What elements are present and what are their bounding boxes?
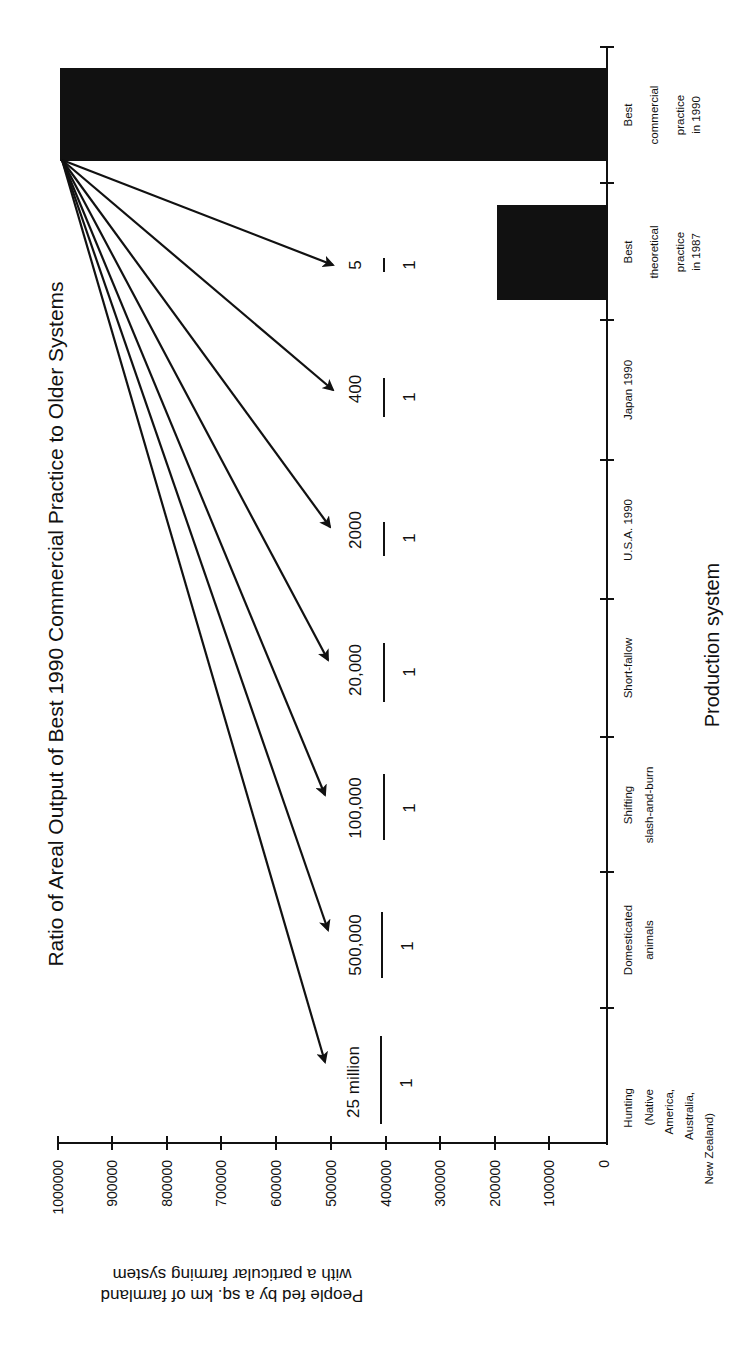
svg-text:in 1990: in 1990 xyxy=(690,96,702,134)
ytick-900000: 900000 xyxy=(104,1160,120,1207)
svg-text:100,000: 100,000 xyxy=(346,777,365,838)
category-label-best-theoretical: Best theoretical practice in 1987 xyxy=(622,225,702,278)
ytick-700000: 700000 xyxy=(213,1160,229,1207)
svg-text:1: 1 xyxy=(397,1078,416,1087)
arrow-to-usa xyxy=(62,160,330,527)
svg-text:1: 1 xyxy=(400,260,419,269)
category-label-japan-1990: Japan 1990 xyxy=(622,360,634,420)
ytick-300000: 300000 xyxy=(432,1160,448,1207)
svg-text:2000: 2000 xyxy=(346,511,365,549)
bar-best-commercial-1990 xyxy=(60,68,607,161)
category-label-shifting: Shifting slash-and-burn xyxy=(622,767,655,844)
svg-text:1: 1 xyxy=(400,667,419,676)
svg-text:Australia,: Australia, xyxy=(683,1092,695,1140)
category-axis-title: Production system xyxy=(701,563,723,728)
svg-text:Domesticated: Domesticated xyxy=(622,905,634,975)
svg-text:400: 400 xyxy=(346,375,365,403)
svg-text:1: 1 xyxy=(400,803,419,812)
svg-text:Hunting: Hunting xyxy=(622,1088,634,1128)
ytick-1000000: 1000000 xyxy=(50,1160,66,1215)
value-axis-title-line2: with a particular farming system xyxy=(112,1265,352,1284)
ytick-500000: 500000 xyxy=(323,1160,339,1207)
value-axis-title-line1: People fed by a sq. km of farmland xyxy=(101,1286,364,1305)
svg-text:slash-and-burn: slash-and-burn xyxy=(643,767,655,844)
arrow-to-hunting xyxy=(62,160,325,1062)
arrow-to-short-fallow xyxy=(62,160,328,660)
svg-text:20,000: 20,000 xyxy=(346,644,365,696)
chart-svg: Ratio of Areal Output of Best 1990 Comme… xyxy=(0,0,739,1357)
ytick-400000: 400000 xyxy=(378,1160,394,1207)
svg-text:practice: practice xyxy=(674,95,686,135)
arrow-to-best-theoretical xyxy=(62,160,333,265)
value-axis-labels: 1000000 900000 800000 700000 600000 5000… xyxy=(50,1160,612,1215)
svg-text:New Zealand): New Zealand) xyxy=(703,1113,715,1185)
category-label-short-fallow: Short-fallow xyxy=(622,637,634,698)
chart-container: Ratio of Areal Output of Best 1990 Comme… xyxy=(0,0,739,1357)
svg-text:(Native: (Native xyxy=(643,1089,655,1125)
ytick-800000: 800000 xyxy=(159,1160,175,1207)
category-label-hunting: Hunting (Native America, Australia, New … xyxy=(622,1088,715,1185)
svg-text:theoretical: theoretical xyxy=(648,225,660,278)
value-axis xyxy=(58,1136,607,1150)
ratio-short-fallow: 20,000 1 xyxy=(346,643,419,702)
ratio-hunting: 25 million 1 xyxy=(344,1036,416,1124)
value-axis-title: People fed by a sq. km of farmland with … xyxy=(101,1265,364,1305)
ytick-100000: 100000 xyxy=(541,1160,557,1207)
svg-text:Shifting: Shifting xyxy=(622,786,634,824)
svg-text:in 1987: in 1987 xyxy=(690,233,702,271)
svg-text:commercial: commercial xyxy=(648,86,660,145)
svg-text:1: 1 xyxy=(400,533,419,542)
ytick-600000: 600000 xyxy=(268,1160,284,1207)
svg-text:animals: animals xyxy=(643,920,655,960)
ratio-arrows xyxy=(62,160,333,1062)
arrow-to-domesticated xyxy=(62,160,328,930)
svg-text:5: 5 xyxy=(346,260,365,269)
svg-text:America,: America, xyxy=(663,1089,675,1134)
ratio-domesticated: 500,000 1 xyxy=(346,912,417,978)
svg-text:Best: Best xyxy=(622,240,634,264)
chart-title: Ratio of Areal Output of Best 1990 Comme… xyxy=(44,281,67,966)
ytick-0: 0 xyxy=(596,1160,612,1168)
svg-text:practice: practice xyxy=(674,232,686,272)
svg-text:Best: Best xyxy=(622,103,634,127)
ytick-200000: 200000 xyxy=(487,1160,503,1207)
svg-text:1: 1 xyxy=(400,392,419,401)
arrow-to-shifting xyxy=(62,160,325,795)
svg-text:500,000: 500,000 xyxy=(346,914,365,975)
svg-text:25 million: 25 million xyxy=(344,1046,363,1118)
category-label-usa-1990: U.S.A. 1990 xyxy=(622,499,634,561)
ratio-best-theoretical: 5 1 xyxy=(346,258,419,272)
category-label-domesticated: Domesticated animals xyxy=(622,905,655,975)
category-label-best-commercial: Best commercial practice in 1990 xyxy=(622,86,702,145)
ratio-usa: 2000 1 xyxy=(346,511,419,556)
ratio-shifting: 100,000 1 xyxy=(346,774,419,840)
svg-text:1: 1 xyxy=(398,941,417,950)
ratio-japan: 400 1 xyxy=(346,375,419,417)
bar-best-theoretical-1987 xyxy=(497,205,607,300)
ratio-annotations: 5 1 400 1 2000 1 20,000 1 100,000 1 xyxy=(344,258,419,1124)
